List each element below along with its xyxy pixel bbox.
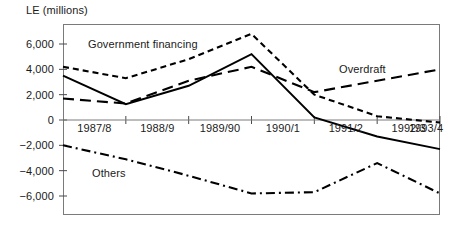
x-tick-label: 1993/4 [409, 122, 443, 134]
x-tick-label: 1990/1 [266, 122, 300, 134]
x-tick-label: 1987/8 [77, 122, 111, 134]
y-tick-label: 2,000 [0, 89, 54, 101]
x-tick-label: 1991/2 [329, 122, 363, 134]
y-tick-label: −4,000 [0, 165, 54, 177]
y-tick-label: 0 [0, 114, 54, 126]
x-tick-label: 1988/9 [140, 122, 174, 134]
series-annotation-others: Others [92, 167, 126, 179]
y-tick-label: −6,000 [0, 190, 54, 202]
series-annotation-government-financing: Government financing [88, 38, 198, 50]
y-tick-label: 4,000 [0, 63, 54, 75]
chart-figure: LE (millions) 6,0004,0002,0000−2,000−4,0… [0, 0, 455, 231]
x-tick-label: 1989/90 [200, 122, 240, 134]
chart-canvas [0, 0, 455, 231]
y-tick-label: −2,000 [0, 139, 54, 151]
y-tick-label: 6,000 [0, 38, 54, 50]
series-annotation-overdraft: Overdraft [339, 63, 386, 75]
